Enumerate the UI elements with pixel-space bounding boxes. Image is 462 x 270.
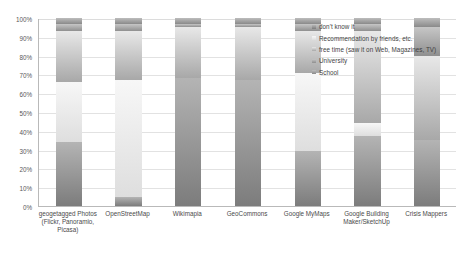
legend-swatch-icon: [312, 47, 316, 51]
x-axis-labels: geogetagged Photos (Flickr, Panoramio, P…: [38, 210, 456, 268]
bar-segment: [56, 24, 82, 32]
bar-column: [235, 19, 261, 206]
bar-segment: [175, 18, 201, 24]
legend-label: University: [319, 57, 347, 64]
bar-segment: [175, 27, 201, 78]
legend-swatch-icon: [312, 70, 316, 74]
legend-label: Recommendation by friends, etc.: [319, 35, 413, 42]
x-axis-tick-label: GeoCommons: [217, 210, 277, 218]
bar-segment: [295, 73, 321, 152]
chart-legend: don't know itRecommendation by friends, …: [312, 21, 458, 78]
y-axis-tick-label: 90%: [19, 34, 32, 41]
y-axis-tick-label: 60%: [19, 91, 32, 98]
legend-item[interactable]: don't know it: [312, 21, 458, 32]
x-axis-tick-label: Google Building Maker/SketchUp: [337, 210, 397, 226]
bar-segment: [56, 142, 82, 206]
bar-segment: [175, 24, 201, 28]
bar-segment: [354, 136, 380, 206]
y-axis-tick-label: 0%: [23, 204, 32, 211]
bar-column: [115, 19, 141, 206]
y-axis-tick-label: 40%: [19, 128, 32, 135]
legend-item[interactable]: University: [312, 55, 458, 66]
bar-segment: [354, 123, 380, 136]
bar-column: [56, 19, 82, 206]
legend-item[interactable]: free time (saw it on Web, Magazines, TV): [312, 44, 458, 55]
bar-segment: [115, 24, 141, 32]
bar-segment: [115, 197, 141, 206]
bar-column: [175, 19, 201, 206]
x-axis-tick-label: geogetagged Photos (Flickr, Panoramio, P…: [38, 210, 98, 235]
bar-segment: [56, 31, 82, 82]
x-axis-tick-label: Crisis Mappers: [396, 210, 456, 218]
bar-segment: [56, 18, 82, 24]
bar-segment: [235, 24, 261, 28]
bar-segment: [295, 151, 321, 206]
bar-segment: [235, 80, 261, 206]
legend-label: School: [319, 69, 339, 76]
y-axis-labels: 100%90%80%70%60%50%40%30%20%10%0%: [0, 19, 34, 207]
bar-segment: [115, 80, 141, 197]
y-axis-tick-label: 70%: [19, 72, 32, 79]
bar-segment: [56, 82, 82, 142]
stacked-bar-chart: 100%90%80%70%60%50%40%30%20%10%0% geoget…: [0, 0, 462, 270]
y-axis-tick-label: 20%: [19, 166, 32, 173]
legend-swatch-icon: [312, 59, 316, 63]
legend-item[interactable]: Recommendation by friends, etc.: [312, 32, 458, 43]
bar-segment: [235, 18, 261, 24]
bar-segment: [175, 78, 201, 206]
legend-swatch-icon: [312, 36, 316, 40]
x-axis-tick-label: Wikimapia: [157, 210, 217, 218]
legend-item[interactable]: School: [312, 67, 458, 78]
bar-segment: [414, 140, 440, 206]
y-axis-tick-label: 80%: [19, 53, 32, 60]
bar-segment: [115, 31, 141, 80]
legend-label: don't know it: [319, 23, 354, 30]
x-axis-tick-label: Google MyMaps: [277, 210, 337, 218]
legend-swatch-icon: [312, 25, 316, 29]
bar-segment: [115, 18, 141, 24]
y-axis-tick-label: 50%: [19, 110, 32, 117]
y-axis-tick-label: 30%: [19, 147, 32, 154]
y-axis-tick-label: 100%: [16, 16, 32, 23]
y-axis-tick-label: 10%: [19, 185, 32, 192]
x-axis-tick-label: OpenStreetMap: [98, 210, 158, 218]
bar-segment: [235, 27, 261, 80]
legend-label: free time (saw it on Web, Magazines, TV): [319, 46, 436, 53]
